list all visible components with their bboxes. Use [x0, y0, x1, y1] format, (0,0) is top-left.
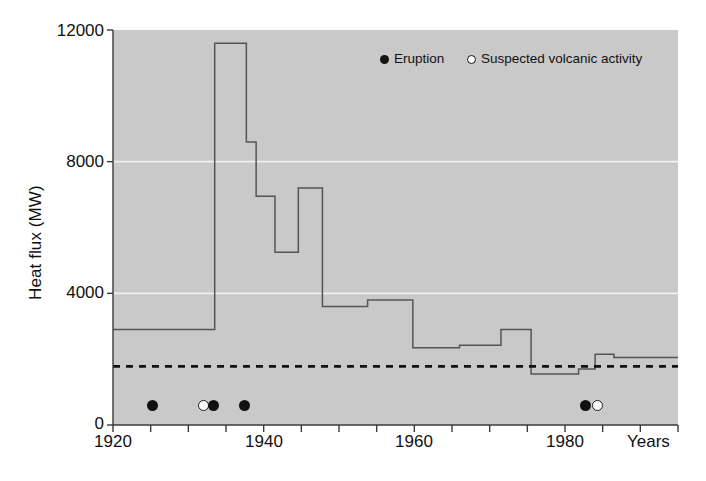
x-tick-label-1980: 1980 [530, 432, 600, 452]
event-marker-eruption-2 [208, 400, 219, 411]
y-tick-label-12000: 12000 [24, 21, 104, 41]
x-axis-title: Years [627, 432, 670, 452]
event-marker-suspected-5 [592, 400, 603, 411]
event-marker-eruption-3 [239, 400, 250, 411]
y-tick-label-4000: 4000 [24, 283, 104, 303]
event-marker-eruption-4 [580, 400, 591, 411]
legend-eruption-icon [380, 55, 389, 64]
x-tick-label-1960: 1960 [379, 432, 449, 452]
legend-eruption-label: Eruption [394, 51, 444, 66]
x-tick-label-1920: 1920 [78, 432, 148, 452]
y-tick-label-0: 0 [24, 414, 104, 434]
y-tick-label-8000: 8000 [24, 152, 104, 172]
x-tick-label-1940: 1940 [229, 432, 299, 452]
event-marker-eruption-0 [147, 400, 158, 411]
heat-flux-step-line [113, 43, 678, 374]
heat-flux-step-chart: Heat flux (MW) 12000 8000 4000 0 1920 19… [0, 0, 706, 481]
legend-suspected-label: Suspected volcanic activity [481, 51, 642, 66]
legend-suspected-icon [467, 55, 476, 64]
